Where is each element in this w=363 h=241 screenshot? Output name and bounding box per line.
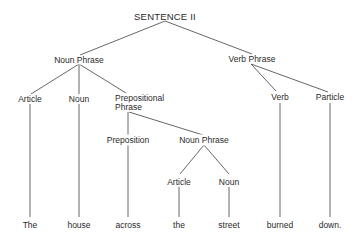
leaf-the-2: the [173,221,185,230]
leaf-burned: burned [267,221,293,230]
node-noun-phrase-inner: Noun Phrase [178,135,230,146]
leaf-the: The [23,221,38,230]
node-verb: Verb [271,93,289,102]
edge-root-vp [165,21,252,54]
edge-vp-verb [251,64,276,91]
leaf-house: house [67,221,90,230]
leaf-street: street [218,221,239,230]
node-prepositional-phrase-line2: Phrase [115,103,142,112]
node-noun: Noun [69,95,89,104]
leaf-down: down. [319,221,342,230]
tree-edges [0,0,363,241]
edge-np-pp [79,64,126,93]
leaf-across: across [115,221,140,230]
edge-np-article [31,64,79,94]
node-sentence: SENTENCE II [134,12,196,21]
node-article-inner: Article [167,178,191,187]
parse-tree-diagram: SENTENCE II Noun Phrase Verb Phrase Arti… [0,0,363,241]
edge-np2-noun [204,145,229,174]
edge-np2-article [180,145,204,174]
edge-vp-particle [251,64,328,92]
node-article: Article [18,95,42,104]
node-noun-inner: Noun [219,178,239,187]
node-verb-phrase: Verb Phrase [228,55,277,64]
node-noun-phrase: Noun Phrase [53,56,105,65]
edge-pp-np2 [129,112,203,135]
node-particle: Particle [316,93,344,102]
node-preposition: Preposition [106,135,151,146]
edge-root-np [80,21,165,55]
